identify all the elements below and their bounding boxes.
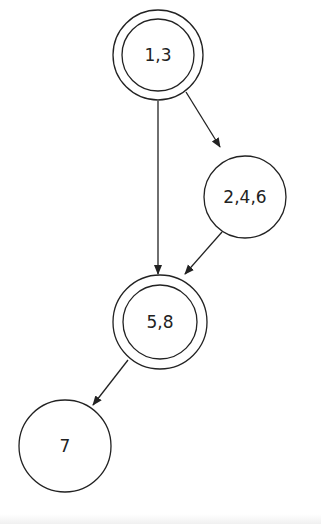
edge-2-4-6-to-5-8	[185, 232, 222, 274]
state-label: 1,3	[144, 45, 171, 65]
state-label: 5,8	[146, 312, 173, 332]
state-node-2-4-6: 2,4,6	[204, 156, 286, 238]
edge-1-3-to-2-4-6	[186, 92, 220, 147]
state-label: 7	[60, 436, 71, 456]
state-diagram: 1,3 2,4,6 5,8 7	[0, 0, 321, 524]
state-label: 2,4,6	[223, 187, 266, 207]
state-node-7: 7	[19, 400, 111, 492]
edge-5-8-to-7	[93, 360, 128, 405]
state-node-5-8: 5,8	[113, 275, 207, 369]
page-edge-shadow	[0, 514, 321, 524]
state-node-1-3: 1,3	[113, 10, 203, 100]
